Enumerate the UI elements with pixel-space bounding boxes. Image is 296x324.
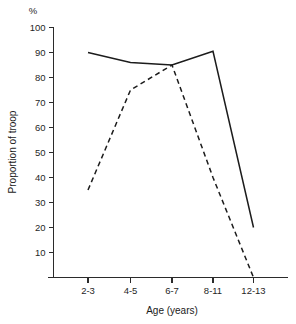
x-tick-marks: [88, 278, 254, 283]
y-axis-group: 102030405060708090100: [30, 22, 54, 278]
y-tick-label-30: 30: [35, 197, 46, 208]
y-tick-label-60: 60: [35, 122, 46, 133]
y-tick-label-50: 50: [35, 147, 46, 158]
y-tick-label-100: 100: [30, 22, 46, 33]
data-series-group: [88, 51, 254, 277]
y-tick-marks: [49, 28, 54, 253]
y-tick-label-80: 80: [35, 72, 46, 83]
y-tick-label-90: 90: [35, 47, 46, 58]
y-tick-label-10: 10: [35, 247, 46, 258]
x-tick-labels: 2-34-56-78-1112-13: [81, 285, 266, 296]
y-tick-label-40: 40: [35, 172, 46, 183]
y-axis-unit-label: %: [29, 5, 38, 16]
x-axis-title: Age (years): [146, 305, 198, 316]
x-tick-label-2-3: 2-3: [81, 285, 95, 296]
y-tick-label-20: 20: [35, 222, 46, 233]
x-axis-group: 2-34-56-78-1112-13: [48, 278, 289, 296]
x-tick-label-6-7: 6-7: [165, 285, 179, 296]
x-tick-label-4-5: 4-5: [124, 285, 138, 296]
x-tick-label-8-11: 8-11: [204, 285, 222, 296]
series-dashed-series: [88, 65, 254, 278]
y-tick-label-70: 70: [35, 97, 46, 108]
x-tick-label-12-13: 12-13: [241, 285, 265, 296]
chart-canvas: 102030405060708090100 2-34-56-78-1112-13…: [0, 0, 296, 324]
line-chart-figure: 102030405060708090100 2-34-56-78-1112-13…: [0, 0, 296, 324]
series-solid-series: [88, 51, 254, 227]
y-tick-labels: 102030405060708090100: [30, 22, 46, 258]
y-axis-title: Proportion of troop: [7, 110, 18, 193]
